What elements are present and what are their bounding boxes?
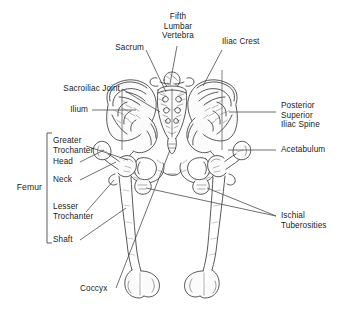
label-fifth-lumbar-vertebra: Fifth Lumbar Vertebra [152,12,204,41]
leader-ischial-tuberosities-right [207,188,276,216]
label-coccyx: Coccyx [80,284,107,294]
bone-artwork [93,72,250,298]
label-ilium: Ilium [44,105,88,115]
label-neck: Neck [53,175,72,185]
label-greater-trochanter: Greater Trochanter [53,136,93,155]
label-ischial-tuberosities: Ischial Tuberosities [281,211,327,230]
anatomy-figure: Fifth Lumbar Vertebra Sacrum Iliac Crest… [0,0,344,312]
label-head: Head [53,157,73,167]
label-iliac-crest: Iliac Crest [222,37,260,47]
label-posterior-superior-iliac-spine: Posterior Superior Iliac Spine [281,101,320,130]
label-shaft: Shaft [53,235,73,245]
femur-bracket [47,133,52,243]
label-lesser-trochanter: Lesser Trochanter [53,202,93,221]
skeleton-illustration [0,0,344,312]
leader-sacrum [146,50,166,92]
label-femur-group: Femur [0,182,42,192]
label-sacroiliac-joint: Sacroiliac Joint [16,84,120,94]
label-sacrum: Sacrum [86,43,144,53]
label-acetabulum: Acetabulum [281,145,325,155]
